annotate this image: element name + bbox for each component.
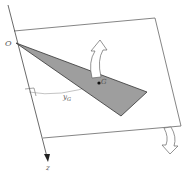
triangular-plate (16, 43, 147, 116)
plane-right-edge (155, 18, 181, 126)
rotation-arrow-up-icon (91, 40, 107, 78)
z-axis-label: z (45, 164, 50, 172)
z-axis-arrowhead-icon (44, 154, 50, 162)
origin-label: O (5, 39, 12, 48)
diagram-canvas: O G yG z (0, 0, 191, 179)
plane-top-edge (14, 18, 155, 31)
rotation-arrow-down-icon (162, 127, 178, 154)
distance-label: yG (62, 93, 71, 102)
point-label: G (101, 78, 107, 86)
plane-bottom-edge (43, 126, 181, 138)
